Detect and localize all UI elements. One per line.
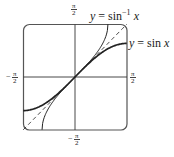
arcsin-curve-label: y = sin−1 x <box>90 8 139 24</box>
tick-denominator: 2 <box>74 140 80 146</box>
label-eq: = sin <box>95 9 122 23</box>
label-var-x: x <box>131 9 139 23</box>
y-tick-top-label: π 2 <box>71 3 77 16</box>
label-var-x: x <box>164 36 169 50</box>
x-tick-left-label: − π 2 <box>12 71 18 84</box>
plot-area <box>0 0 174 157</box>
label-superscript: −1 <box>122 8 131 17</box>
label-eq: = sin <box>134 36 164 50</box>
x-tick-right-label: π 2 <box>130 71 136 84</box>
y-tick-bottom-label: − π 2 <box>74 133 80 146</box>
tick-minus: − <box>6 74 11 80</box>
tick-denominator: 2 <box>130 78 136 84</box>
tick-minus: − <box>68 136 73 142</box>
tick-denominator: 2 <box>12 78 18 84</box>
tick-denominator: 2 <box>71 10 77 16</box>
sin-curve-label: y = sin x <box>129 36 169 51</box>
figure: π 2 − π 2 − π 2 π 2 y = sin−1 x y = sin … <box>0 0 174 157</box>
